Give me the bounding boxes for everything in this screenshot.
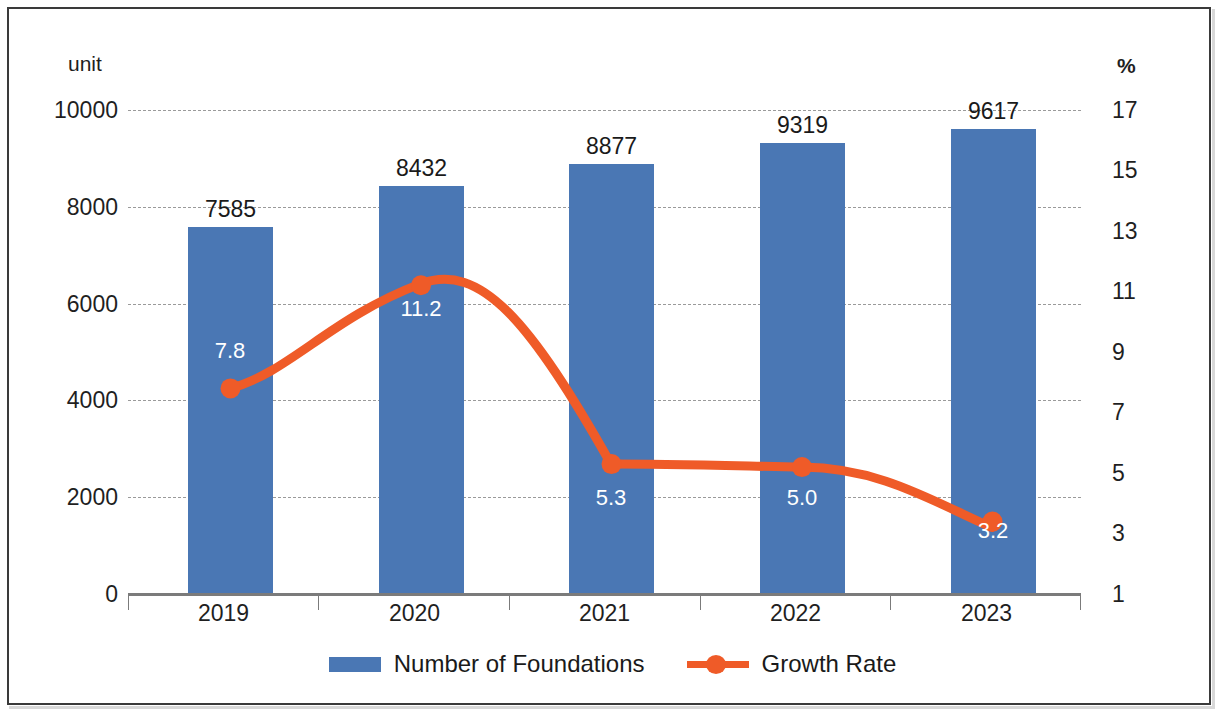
legend-bar-swatch-icon: [329, 657, 381, 672]
left-tick-10000: 10000: [25, 97, 118, 124]
right-tick-3: 3: [1112, 520, 1125, 547]
bar-value-2019: 7585: [160, 196, 301, 223]
right-tick-7: 7: [1112, 399, 1125, 426]
category-label-2019: 2019: [153, 600, 294, 627]
bar-2022[interactable]: [760, 143, 845, 594]
right-tick-15: 15: [1112, 157, 1138, 184]
x-tick-1: [318, 594, 319, 610]
bar-value-2023: 9617: [923, 98, 1064, 125]
category-label-2023: 2023: [916, 600, 1057, 627]
bar-2021[interactable]: [569, 164, 654, 594]
right-axis-title: %: [1117, 54, 1136, 78]
category-label-2022: 2022: [725, 600, 866, 627]
growth-value-2023: 3.2: [933, 518, 1053, 544]
legend-label-foundations: Number of Foundations: [394, 650, 645, 678]
growth-value-2019: 7.8: [170, 338, 290, 364]
left-tick-2000: 2000: [25, 484, 118, 511]
left-tick-0: 0: [25, 581, 118, 608]
bar-value-2021: 8877: [541, 133, 682, 160]
x-tick-3: [700, 594, 701, 610]
x-tick-0: [128, 594, 129, 610]
right-tick-11: 11: [1112, 278, 1136, 305]
left-tick-4000: 4000: [25, 387, 118, 414]
legend-line-swatch-icon: [687, 653, 749, 675]
bar-value-2022: 9319: [732, 112, 873, 139]
right-tick-5: 5: [1112, 460, 1125, 487]
left-tick-8000: 8000: [25, 194, 118, 221]
x-tick-5: [1080, 594, 1081, 610]
category-label-2020: 2020: [344, 600, 485, 627]
growth-value-2020: 11.2: [361, 296, 481, 322]
chart-screenshot: unit % 10000 8000 6000 4000 2000 0 17 15…: [0, 0, 1225, 721]
legend-item-growth-rate[interactable]: Growth Rate: [687, 650, 897, 678]
right-tick-17: 17: [1112, 97, 1138, 124]
x-tick-4: [890, 594, 891, 610]
left-axis-title: unit: [68, 52, 102, 76]
right-tick-1: 1: [1112, 581, 1125, 608]
bar-2020[interactable]: [379, 186, 464, 594]
x-tick-2: [509, 594, 510, 610]
left-tick-6000: 6000: [25, 291, 118, 318]
growth-value-2021: 5.3: [551, 485, 671, 511]
bar-value-2020: 8432: [351, 155, 492, 182]
legend-label-growth-rate: Growth Rate: [762, 650, 897, 678]
category-label-2021: 2021: [534, 600, 675, 627]
legend-item-foundations[interactable]: Number of Foundations: [329, 650, 645, 678]
chart-legend: Number of Foundations Growth Rate: [0, 650, 1225, 678]
chart-plot-area: unit % 10000 8000 6000 4000 2000 0 17 15…: [0, 0, 1225, 721]
right-tick-13: 13: [1112, 218, 1138, 245]
growth-value-2022: 5.0: [742, 485, 862, 511]
right-tick-9: 9: [1112, 339, 1125, 366]
x-axis-line: [128, 593, 1081, 596]
bar-2019[interactable]: [188, 227, 273, 594]
